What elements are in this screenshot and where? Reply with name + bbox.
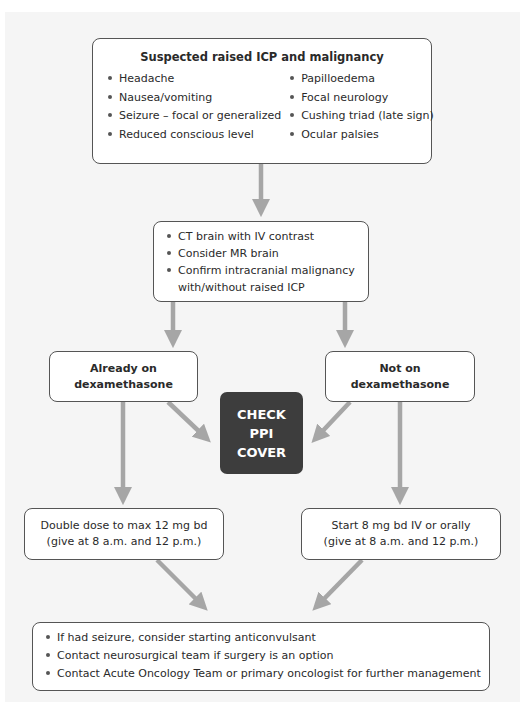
symptom-list-right: Papilloedema Focal neurology Cushing tri… xyxy=(281,70,434,144)
list-item: Seizure – focal or generalized xyxy=(105,107,281,126)
arrow-left-to-ppi xyxy=(168,402,205,437)
ppi-label-line: COVER xyxy=(237,443,286,462)
list-item: CT brain with IV contrast xyxy=(164,228,358,245)
list-item: Reduced conscious level xyxy=(105,126,281,145)
imaging-box: CT brain with IV contrast Consider MR br… xyxy=(153,221,369,302)
double-dose-box: Double dose to max 12 mg bd (give at 8 a… xyxy=(24,508,224,560)
list-item: Focal neurology xyxy=(287,89,434,108)
list-item: Headache xyxy=(105,70,281,89)
list-item: Ocular palsies xyxy=(287,126,434,145)
list-item: Consider MR brain xyxy=(164,245,358,262)
list-item: If had seizure, consider starting antico… xyxy=(43,629,479,647)
suspected-raised-icp-box: Suspected raised ICP and malignancy Head… xyxy=(92,38,432,164)
list-item: Nausea/vomiting xyxy=(105,89,281,108)
arrow-rightdose-to-bottom xyxy=(318,560,362,605)
dose-line: Start 8 mg bd IV or orally xyxy=(302,518,500,534)
dose-line: Double dose to max 12 mg bd xyxy=(25,518,223,534)
list-item: Confirm intracranial malignancy with/wit… xyxy=(164,262,358,296)
branch-label-line: Not on xyxy=(351,361,450,377)
already-on-dexamethasone-box: Already on dexamethasone xyxy=(49,351,198,402)
ppi-label-line: CHECK xyxy=(237,405,286,424)
branch-label-line: dexamethasone xyxy=(74,377,173,393)
dose-timing: (give at 8 a.m. and 12 p.m.) xyxy=(25,534,223,550)
arrow-right-to-ppi xyxy=(317,402,350,437)
imaging-list: CT brain with IV contrast Consider MR br… xyxy=(164,228,358,296)
box-title: Suspected raised ICP and malignancy xyxy=(105,49,419,65)
list-item: Papilloedema xyxy=(287,70,434,89)
check-ppi-cover-box: CHECK PPI COVER xyxy=(220,392,303,474)
not-on-dexamethasone-box: Not on dexamethasone xyxy=(325,351,475,402)
start-dose-box: Start 8 mg bd IV or orally (give at 8 a.… xyxy=(301,508,501,560)
list-item: Contact neurosurgical team if surgery is… xyxy=(43,647,479,665)
arrow-leftdose-to-bottom xyxy=(157,560,202,605)
further-management-box: If had seizure, consider starting antico… xyxy=(32,622,490,691)
management-list: If had seizure, consider starting antico… xyxy=(43,629,479,683)
symptom-list-left: Headache Nausea/vomiting Seizure – focal… xyxy=(105,70,281,144)
ppi-label-line: PPI xyxy=(250,424,274,443)
list-item: Cushing triad (late sign) xyxy=(287,107,434,126)
branch-label-line: Already on xyxy=(74,361,173,377)
branch-label-line: dexamethasone xyxy=(351,377,450,393)
dose-timing: (give at 8 a.m. and 12 p.m.) xyxy=(302,534,500,550)
list-item: Contact Acute Oncology Team or primary o… xyxy=(43,665,479,683)
